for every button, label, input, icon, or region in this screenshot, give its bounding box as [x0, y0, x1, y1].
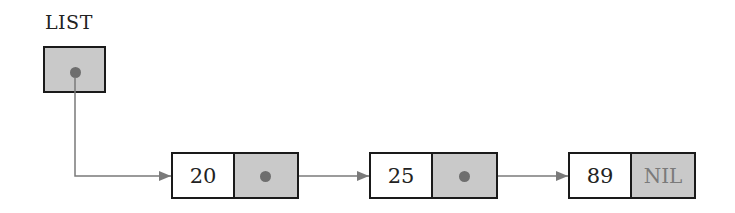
list-node-3: 89 NIL — [568, 152, 696, 199]
nil-label: NIL — [644, 164, 683, 188]
pointer-dot-icon — [459, 171, 470, 182]
node-value-cell: 25 — [371, 154, 433, 197]
head-to-node1-arrow — [75, 77, 171, 176]
list-node-1: 20 — [171, 152, 299, 199]
node-next-cell — [235, 154, 297, 197]
list-node-2: 25 — [369, 152, 498, 199]
pointer-dot-icon — [260, 171, 271, 182]
node-next-cell — [433, 154, 496, 197]
node-next-cell-nil: NIL — [632, 154, 694, 197]
node-value-cell: 20 — [173, 154, 235, 197]
node-value-cell: 89 — [570, 154, 632, 197]
